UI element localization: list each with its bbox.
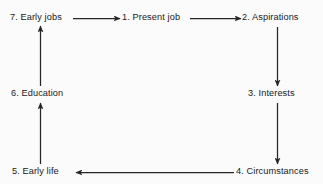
node-aspirations: 2. Aspirations	[242, 12, 299, 23]
node-circumstances: 4. Circumstances	[236, 166, 309, 177]
node-interests: 3. Interests	[248, 88, 295, 99]
node-early-life: 5. Early life	[12, 166, 59, 177]
node-present-job: 1. Present job	[122, 12, 180, 23]
node-education: 6. Education	[11, 88, 63, 99]
node-early-jobs: 7. Early jobs	[10, 12, 62, 23]
career-cycle-diagram: 7. Early jobs 1. Present job 2. Aspirati…	[0, 0, 323, 184]
